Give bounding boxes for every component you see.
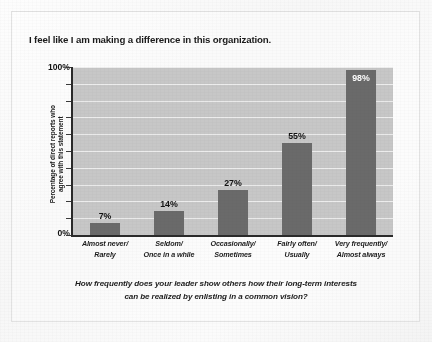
x-axis-category-label-line: Almost never/ [73,239,137,250]
figure-caption-line-1: How frequently does your leader show oth… [40,278,392,291]
y-axis-tick [66,84,71,85]
y-axis-title: Percentage of direct reports who agree w… [49,74,65,234]
x-axis-line [71,235,393,237]
bar-value-label: 55% [288,131,306,141]
chart-title: I feel like I am making a difference in … [29,34,271,45]
y-axis-tick [66,151,71,152]
x-axis-category-label-line: Fairly often/ [265,239,329,250]
bar[interactable]: 55% [282,143,312,235]
y-axis-title-line-1: Percentage of direct reports who [49,105,56,203]
x-axis-category-label-line: Sometimes [201,250,265,261]
x-axis-category-label-line: Occasionally/ [201,239,265,250]
figure-caption: How frequently does your leader show oth… [40,278,392,303]
y-axis-tick [66,235,71,236]
x-axis-category-label-line: Rarely [73,250,137,261]
x-axis-category-label-line: Very frequently/ [329,239,393,250]
bar-series: 7%14%27%55%98% [73,67,393,235]
y-axis-tick [66,117,71,118]
bar-value-label: 98% [352,73,370,83]
bar[interactable]: 27% [218,190,248,235]
y-axis-tick [66,134,71,135]
x-axis-category-label-line: Almost always [329,250,393,261]
bar[interactable]: 7% [90,223,120,235]
y-axis-tick [66,101,71,102]
bar[interactable]: 14% [154,211,184,235]
x-axis-category-label: Fairly often/Usually [265,239,329,260]
x-axis-category-labels: Almost never/RarelySeldom/Once in a whil… [73,239,393,260]
x-axis-category-label: Seldom/Once in a while [137,239,201,260]
bar-slot: 27% [201,67,265,235]
y-axis-tick [66,201,71,202]
bar-slot: 98% [329,67,393,235]
bar-slot: 7% [73,67,137,235]
plot-area: 7%14%27%55%98% [73,67,393,235]
x-axis-category-label: Occasionally/Sometimes [201,239,265,260]
figure-page: I feel like I am making a difference in … [0,0,432,342]
y-axis-tick [66,67,71,68]
bar-value-label: 7% [99,211,112,221]
bar-value-label: 27% [224,178,242,188]
bar-value-label: 14% [160,199,178,209]
bar-slot: 14% [137,67,201,235]
y-axis-tick [66,185,71,186]
x-axis-category-label: Very frequently/Almost always [329,239,393,260]
y-axis-title-line-2: agree with this statement [57,74,65,234]
x-axis-category-label-line: Once in a while [137,250,201,261]
bar-slot: 55% [265,67,329,235]
bar[interactable]: 98% [346,70,376,235]
figure-caption-line-2: can be realized by enlisting in a common… [40,291,392,304]
x-axis-category-label: Almost never/Rarely [73,239,137,260]
x-axis-category-label-line: Usually [265,250,329,261]
y-axis-tick [66,218,71,219]
y-axis-tick-label-top: 100% [28,62,70,72]
y-axis-tick [66,168,71,169]
x-axis-category-label-line: Seldom/ [137,239,201,250]
